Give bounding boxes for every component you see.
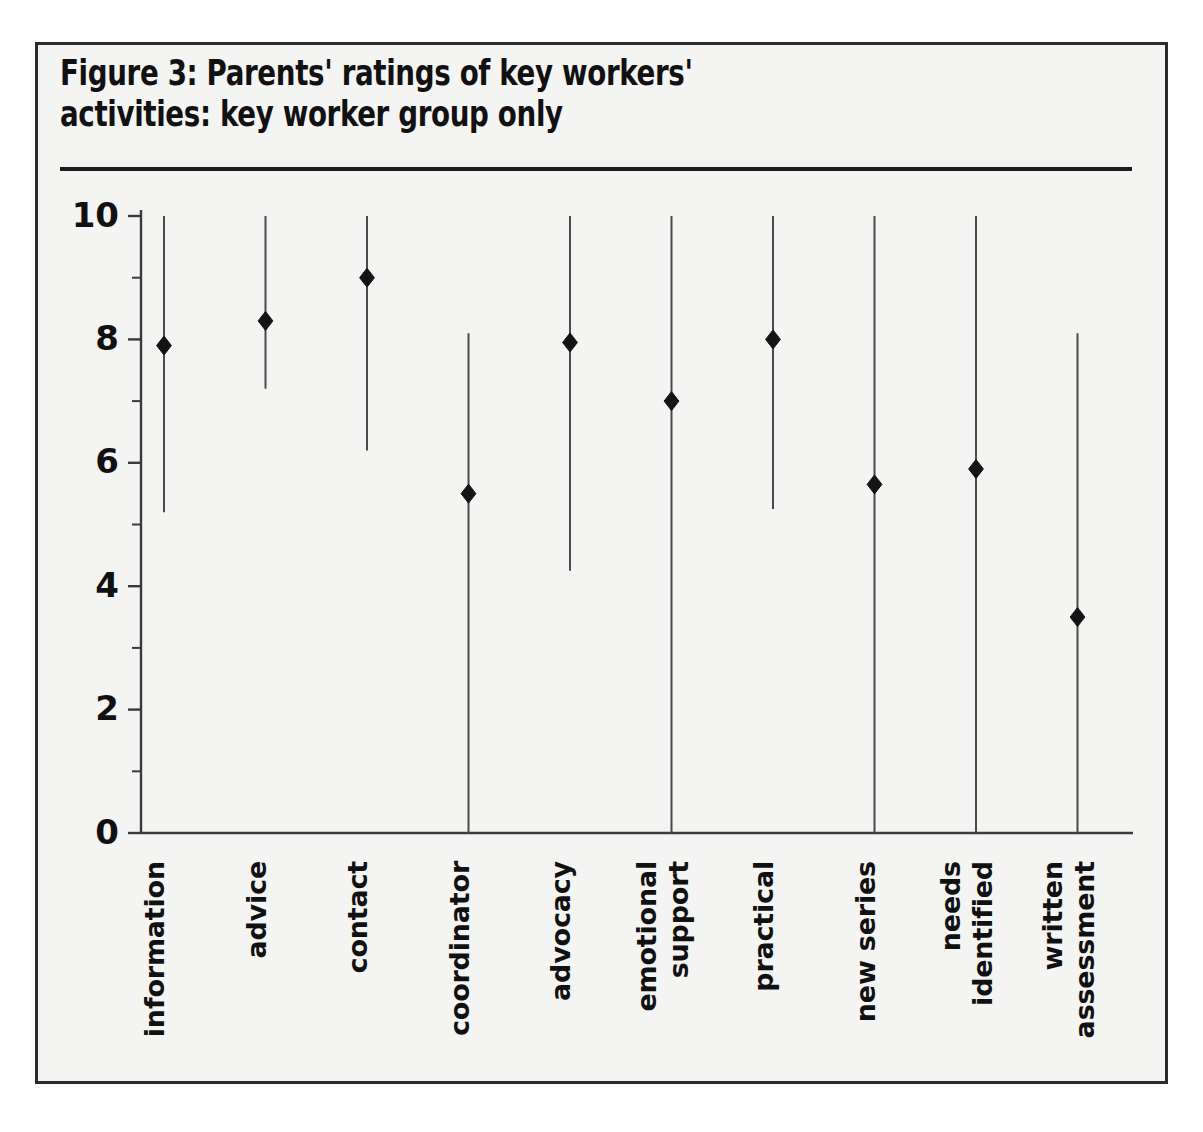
data-point-group [664,216,679,833]
data-point-group [258,216,273,389]
y-tick-label: 4 [95,565,119,605]
y-tick-label: 2 [95,688,119,728]
data-point-group [867,216,882,833]
y-tick-label: 10 [72,195,119,235]
data-point-group [157,216,172,512]
category-label: practical [748,861,779,992]
value-marker-diamond [461,484,476,503]
category-label: identified [967,861,998,1006]
data-point-group [1070,333,1085,833]
category-label: contact [342,861,373,974]
range-plot-svg: 0246810informationadvicecontactcoordinat… [38,45,1171,1087]
category-label: coordinator [444,860,475,1036]
category-label: advocacy [545,860,576,1001]
category-label: support [663,861,694,979]
category-label: new series [850,861,881,1022]
value-marker-diamond [1070,608,1085,627]
value-marker-diamond [664,392,679,411]
y-tick-label: 8 [95,318,119,358]
chart-plot-area: 0246810informationadvicecontactcoordinat… [38,45,1171,1087]
value-marker-diamond [563,333,578,352]
category-label: written [1037,861,1068,970]
y-tick-label: 0 [95,812,119,852]
value-marker-diamond [258,311,273,330]
value-marker-diamond [766,330,781,349]
category-label: emotional [631,861,662,1012]
figure-panel: Figure 3: Parents' ratings of key worker… [35,42,1168,1084]
value-marker-diamond [867,475,882,494]
data-point-group [766,216,781,509]
value-marker-diamond [360,268,375,287]
category-label: needs [935,861,966,951]
value-marker-diamond [157,336,172,355]
category-label: information [139,861,170,1037]
data-point-group [969,216,984,833]
value-marker-diamond [969,459,984,478]
category-label: advice [241,861,272,959]
data-point-group [360,216,375,450]
y-tick-label: 6 [95,441,119,481]
category-label: assessment [1069,861,1100,1039]
data-point-group [461,333,476,833]
data-point-group [563,216,578,571]
